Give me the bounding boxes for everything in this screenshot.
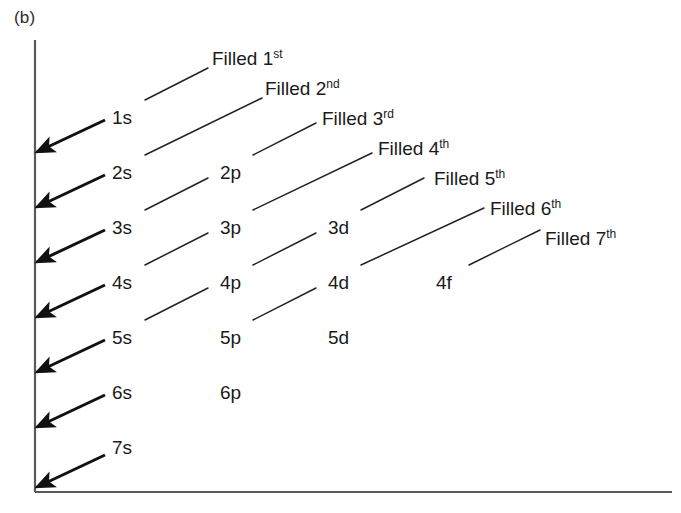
filled-order-ordinal-suffix: th xyxy=(439,137,449,151)
orbital-label-5d: 5d xyxy=(328,328,349,348)
orbital-label-4f: 4f xyxy=(436,273,452,293)
figure-canvas: (b) 1s2s2p3s3p3d4s4p4d4f5s5p5d6s6p7s Fil… xyxy=(0,0,681,513)
filled-order-label-5: Filled 5th xyxy=(434,168,505,189)
energy-order-arrows xyxy=(37,120,105,487)
filled-order-ordinal-suffix: rd xyxy=(383,107,394,121)
orbital-label-1s: 1s xyxy=(112,108,132,128)
filled-order-label-7: Filled 7th xyxy=(545,228,616,249)
diagonal-line-3 xyxy=(145,178,208,210)
diagonal-line-2 xyxy=(145,98,262,155)
orbital-label-3d: 3d xyxy=(328,218,349,238)
filled-order-ordinal-suffix: th xyxy=(606,227,616,241)
fill-order-arrow-7 xyxy=(37,455,105,487)
fill-order-arrow-2 xyxy=(37,175,105,207)
filled-order-ordinal-suffix: th xyxy=(551,197,561,211)
filled-order-text: Filled 1 xyxy=(212,48,273,69)
filled-order-label-6: Filled 6th xyxy=(490,198,561,219)
filled-order-label-4: Filled 4th xyxy=(378,138,449,159)
orbital-label-4s: 4s xyxy=(112,273,132,293)
filled-order-text: Filled 5 xyxy=(434,168,495,189)
fill-order-arrow-6 xyxy=(37,395,105,427)
fill-order-arrow-5 xyxy=(37,340,105,372)
orbital-label-4d: 4d xyxy=(328,273,349,293)
orbital-label-3s: 3s xyxy=(112,218,132,238)
orbital-label-7s: 7s xyxy=(112,438,132,458)
filled-order-text: Filled 6 xyxy=(490,198,551,219)
filled-order-label-1: Filled 1st xyxy=(212,48,283,69)
orbital-label-4p: 4p xyxy=(220,273,241,293)
orbital-label-3p: 3p xyxy=(220,218,241,238)
filled-order-text: Filled 2 xyxy=(265,78,326,99)
fill-order-arrow-4 xyxy=(37,285,105,317)
filled-order-text: Filled 7 xyxy=(545,228,606,249)
diagonal-line-3 xyxy=(253,123,316,155)
filled-order-label-3: Filled 3rd xyxy=(322,108,394,129)
orbital-label-6s: 6s xyxy=(112,383,132,403)
fill-order-arrow-3 xyxy=(37,230,105,262)
orbital-label-6p: 6p xyxy=(220,383,241,403)
filled-order-text: Filled 4 xyxy=(378,138,439,159)
filled-order-ordinal-suffix: st xyxy=(273,47,282,61)
filled-order-label-2: Filled 2nd xyxy=(265,78,340,99)
filled-order-ordinal-suffix: th xyxy=(495,167,505,181)
diagonal-line-1 xyxy=(145,68,208,100)
orbital-label-2s: 2s xyxy=(112,163,132,183)
aufbau-diagram xyxy=(0,0,681,513)
diagonal-line-6 xyxy=(145,288,208,320)
filled-order-ordinal-suffix: nd xyxy=(326,77,339,91)
orbital-label-5p: 5p xyxy=(220,328,241,348)
diagonal-line-4 xyxy=(145,233,208,265)
filled-order-text: Filled 3 xyxy=(322,108,383,129)
diagonal-line-5 xyxy=(361,178,424,210)
diagonal-line-4 xyxy=(253,153,372,210)
fill-order-arrow-1 xyxy=(37,120,105,152)
diagonal-line-7 xyxy=(253,288,316,320)
diagonal-line-6 xyxy=(361,208,484,265)
diagonal-line-5 xyxy=(253,233,316,265)
orbital-label-5s: 5s xyxy=(112,328,132,348)
orbital-label-2p: 2p xyxy=(220,163,241,183)
diagonal-line-7 xyxy=(469,230,540,265)
